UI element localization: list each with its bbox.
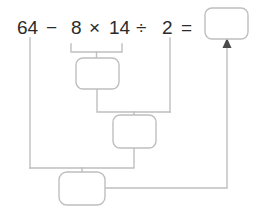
step-2-box[interactable] bbox=[113, 115, 156, 148]
connector-step-1-to-step-2 bbox=[97, 88, 170, 112]
final-answer-box[interactable] bbox=[205, 8, 248, 39]
connector-diagram bbox=[0, 0, 263, 218]
step-3-box[interactable] bbox=[59, 172, 105, 205]
order-of-operations-worksheet: 64 − 8 × 14 ÷ 2 = bbox=[0, 0, 263, 218]
connector-step-2-to-step-3 bbox=[30, 148, 134, 168]
bracket-multiplication bbox=[71, 44, 122, 52]
step-1-box[interactable] bbox=[76, 58, 119, 89]
